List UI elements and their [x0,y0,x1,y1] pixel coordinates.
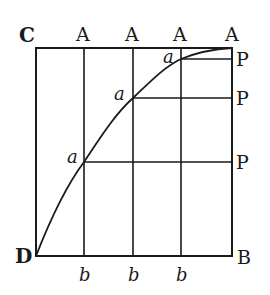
diagram-figure: C D B A A A A P P P b b b a a a [0,0,270,295]
label-p-1: P [236,48,249,70]
label-b-2: b [128,264,140,285]
label-a-point-3: a [163,46,174,67]
label-a-point-1: a [67,146,78,167]
curve-d-to-a [36,48,232,256]
outer-rectangle [36,48,232,256]
label-b: B [237,246,251,268]
label-d: D [15,244,32,268]
label-p-3: P [236,151,249,173]
label-b-1: b [79,264,91,285]
label-a-top-1: A [75,23,90,45]
label-c: C [19,23,35,47]
label-a-top-2: A [124,23,139,45]
label-p-2: P [236,87,249,109]
label-a-top-4: A [224,23,239,45]
label-a-top-3: A [172,23,187,45]
label-a-point-2: a [114,83,125,104]
label-b-3: b [176,264,188,285]
